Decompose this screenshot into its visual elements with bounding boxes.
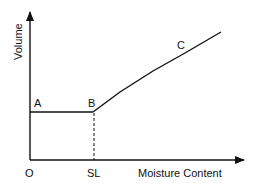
plot-area	[0, 0, 259, 189]
origin-label: O	[25, 168, 34, 179]
segment-b-c	[93, 32, 221, 112]
point-label-c: C	[177, 40, 185, 51]
x-tick-label-sl: SL	[87, 168, 100, 179]
point-label-a: A	[34, 98, 41, 109]
point-label-b: B	[88, 98, 95, 109]
x-axis-label: Moisture Content	[138, 168, 222, 179]
y-axis-label: Volume	[12, 23, 24, 60]
